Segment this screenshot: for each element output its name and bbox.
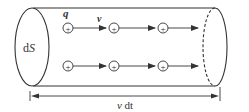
svg-text:+: +	[160, 24, 165, 34]
charge-label: q	[63, 7, 69, 19]
charge-row-top: + + +	[63, 23, 198, 34]
velocity-label: v	[97, 13, 102, 24]
svg-text:+: +	[111, 24, 116, 34]
end-cap-dashed	[203, 8, 215, 86]
svg-text:+: +	[160, 62, 165, 72]
svg-text:+: +	[111, 62, 116, 72]
current-cylinder-diagram: dS q v + + + + + + v dt	[0, 0, 249, 112]
svg-text:+: +	[65, 24, 70, 34]
charge-row-bottom: + + +	[63, 61, 198, 72]
arrowhead-left-icon	[31, 94, 39, 99]
length-label: v dt	[117, 99, 133, 111]
end-cap-solid	[215, 8, 227, 86]
area-label: dS	[23, 41, 35, 55]
cylinder	[15, 8, 227, 86]
arrowhead-right-icon	[211, 94, 219, 99]
svg-text:+: +	[65, 62, 70, 72]
